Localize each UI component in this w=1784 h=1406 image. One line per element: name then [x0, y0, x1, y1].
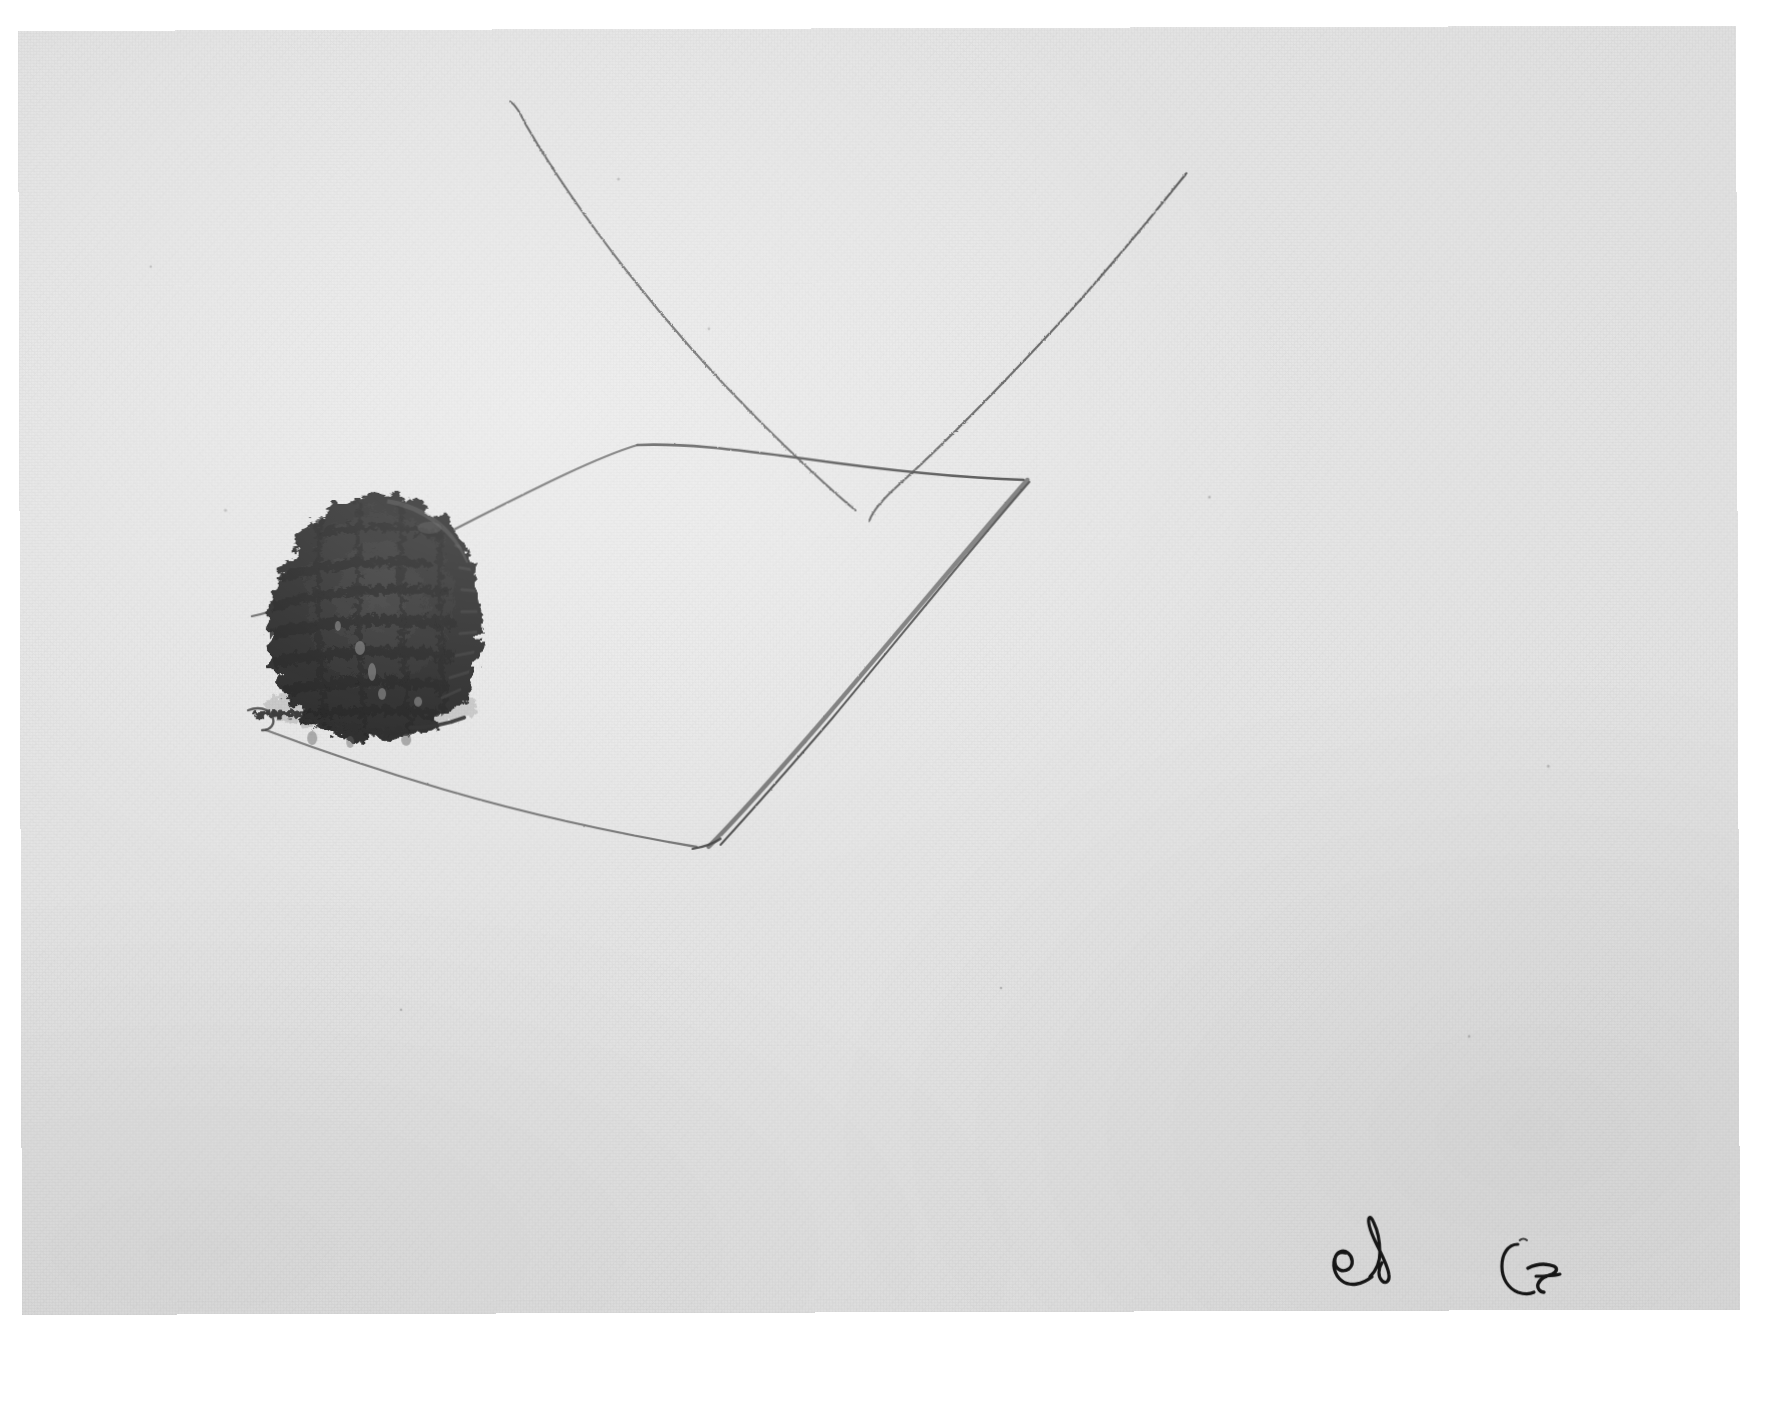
paper-specks: [149, 175, 1551, 1042]
mass-under-marks: [307, 731, 411, 748]
drawing-paper-sheet: [18, 26, 1740, 1315]
plane-top-edge: [637, 443, 1023, 481]
plane-front-edge: [266, 729, 696, 848]
upper-chevron-lines: [510, 99, 1187, 521]
chevron-left-stroke: [510, 100, 855, 511]
plane-back-left-edge: [251, 445, 638, 616]
plane-corner-notch: [693, 839, 721, 849]
plane-edges: [251, 443, 1030, 850]
mass-body: [267, 494, 481, 742]
chevron-right-stroke: [868, 173, 1187, 520]
scan-tonal-vignette: [18, 26, 1740, 1315]
mass-left-hook: [248, 708, 273, 730]
plane-right-edge-inner: [719, 482, 1030, 845]
mass-cast-shadow: [262, 686, 478, 731]
drawing-artwork: [18, 26, 1740, 1315]
mass-base-streak: [258, 713, 406, 733]
dark-mass-group: [247, 494, 484, 748]
mass-interior-hatching: [271, 500, 484, 735]
paper-grain-texture: [18, 26, 1740, 1315]
artist-signature: [1312, 1206, 1612, 1311]
artboard: charcoal and graphite drawing on paper d…: [0, 0, 1784, 1406]
plane-right-edge-outer: [707, 480, 1028, 847]
mass-tail-flick: [410, 718, 464, 728]
